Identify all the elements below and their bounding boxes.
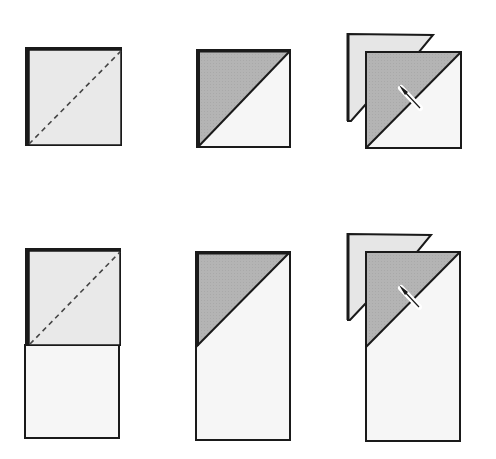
step-rectangle-fold-line	[25, 248, 121, 438]
folding-diagram	[0, 0, 496, 459]
step-rectangle-folded	[196, 252, 290, 440]
step-rectangle-cut	[348, 233, 460, 441]
step-square-cut	[348, 33, 461, 148]
step-square-fold-line	[25, 47, 122, 146]
step-square-folded	[197, 50, 290, 147]
